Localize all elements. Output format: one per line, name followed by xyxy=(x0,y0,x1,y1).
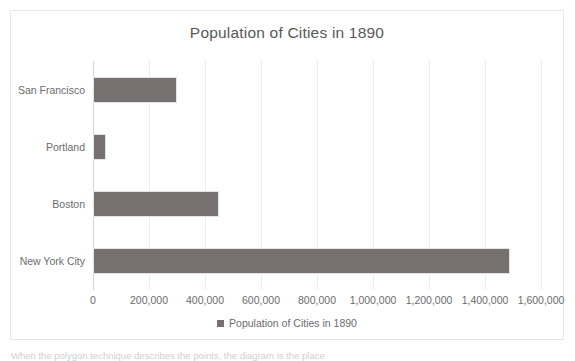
bar xyxy=(93,134,106,160)
value-axis-tick-label: 1,000,000 xyxy=(350,294,397,306)
chart-screenshot: Population of Cities in 1890 San Francis… xyxy=(0,0,575,361)
gridline xyxy=(541,61,542,290)
chart-legend: Population of Cities in 1890 xyxy=(11,317,563,329)
value-axis-tick-label: 200,000 xyxy=(130,294,168,306)
plot-area xyxy=(93,61,541,290)
bar xyxy=(93,191,219,217)
category-axis-label: New York City xyxy=(20,255,85,267)
bar-row xyxy=(93,134,541,160)
value-axis-tick-label: 1,400,000 xyxy=(462,294,509,306)
bar-series xyxy=(93,61,541,290)
legend-swatch-icon xyxy=(217,320,224,327)
bar xyxy=(93,248,510,274)
category-axis-label: Boston xyxy=(52,198,85,210)
value-axis-tick-label: 800,000 xyxy=(298,294,336,306)
bar-row xyxy=(93,248,541,274)
value-axis-tick-label: 0 xyxy=(90,294,96,306)
category-axis-label: Portland xyxy=(46,141,85,153)
value-axis-tick-label: 1,600,000 xyxy=(518,294,565,306)
bar-row xyxy=(93,191,541,217)
category-axis-label: San Francisco xyxy=(18,84,85,96)
value-axis-tick-labels: 0200,000400,000600,000800,0001,000,0001,… xyxy=(93,294,541,310)
chart-title: Population of Cities in 1890 xyxy=(11,24,563,42)
value-axis-tick-label: 400,000 xyxy=(186,294,224,306)
value-axis-tick-label: 600,000 xyxy=(242,294,280,306)
page-caption: When the polygon technique describes the… xyxy=(11,350,431,361)
bar xyxy=(93,77,177,103)
bar-row xyxy=(93,77,541,103)
category-axis-labels: San FranciscoPortlandBostonNew York City xyxy=(11,61,89,290)
chart-frame: Population of Cities in 1890 San Francis… xyxy=(10,10,564,340)
value-axis-tick-label: 1,200,000 xyxy=(406,294,453,306)
legend-label: Population of Cities in 1890 xyxy=(229,317,357,329)
